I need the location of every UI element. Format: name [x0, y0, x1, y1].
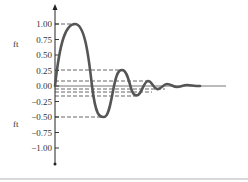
- y-tick-labels: 1.00 0.75 0.50 0.25 0.00 −0.25 −0.50 −0.…: [31, 19, 52, 153]
- tick-label: 0.00: [36, 81, 52, 91]
- y-axis-arrow-icon: [53, 4, 58, 10]
- unit-label-bottom: ft: [13, 119, 19, 129]
- tick-label: 0.25: [36, 66, 52, 76]
- tick-label: −1.00: [31, 143, 52, 153]
- tick-label: −0.25: [31, 97, 52, 107]
- bottom-separator: [0, 178, 248, 180]
- damped-oscillation-curve: [55, 24, 200, 117]
- tick-label: 0.75: [36, 35, 52, 45]
- tick-label: 1.00: [36, 19, 52, 29]
- y-axis-end-dot-icon: [54, 163, 57, 166]
- damped-oscillation-chart: 1.00 0.75 0.50 0.25 0.00 −0.25 −0.50 −0.…: [0, 0, 248, 182]
- tick-label: −0.50: [31, 112, 52, 122]
- tick-label: −0.75: [31, 128, 52, 138]
- tick-label: 0.50: [36, 50, 52, 60]
- unit-label-top: ft: [13, 39, 19, 49]
